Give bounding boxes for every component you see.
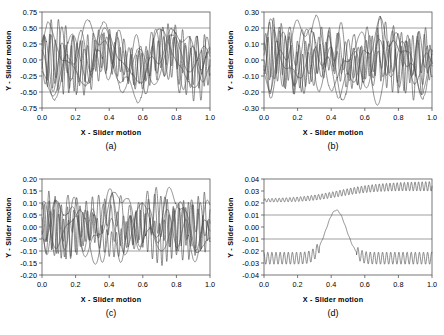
y-tick-label: -0.75 (20, 104, 37, 113)
x-tick-label: 0.6 (360, 280, 370, 289)
x-axis-label: X - Slider motion (0, 128, 222, 137)
x-tick-label: 0.8 (171, 280, 181, 289)
x-tick-label: 0.0 (259, 113, 269, 122)
x-tick-label: 0.0 (259, 280, 269, 289)
y-axis-label: Y - Slider motion (2, 179, 14, 275)
y-tick-label: 0.01 (245, 211, 259, 220)
y-tick-label: -0.05 (20, 235, 37, 244)
panel-caption-d: (d) (222, 308, 444, 318)
curve-upper-trace (264, 182, 432, 202)
curve-lower-trace (264, 210, 432, 264)
curve-trace-1 (264, 18, 432, 100)
x-tick-label: 1.0 (205, 113, 215, 122)
plot-d: -0.04-0.03-0.02-0.010.000.010.020.030.04… (222, 167, 444, 335)
y-tick-label: -0.20 (242, 88, 259, 97)
x-tick-label: 0.8 (393, 280, 403, 289)
y-axis-ticks: -0.20-0.15-0.10-0.050.000.050.100.150.20 (20, 175, 42, 280)
x-tick-label: 0.2 (293, 280, 303, 289)
x-axis-ticks: 0.00.20.40.60.81.0 (37, 108, 215, 122)
x-axis-label: X - Slider motion (0, 295, 222, 304)
panel-a: -0.75-0.50-0.250.000.250.500.750.00.20.4… (0, 0, 222, 167)
y-axis-label-text: Y - Slider motion (4, 197, 13, 257)
y-tick-label: 0.25 (23, 40, 37, 49)
y-tick-label: -0.20 (20, 271, 37, 280)
x-tick-label: 0.8 (171, 113, 181, 122)
y-tick-label: 0.00 (245, 223, 259, 232)
x-tick-label: 0.0 (37, 280, 47, 289)
x-axis-label: X - Slider motion (222, 128, 444, 137)
y-tick-label: 0.00 (23, 56, 37, 65)
x-axis-ticks: 0.00.20.40.60.81.0 (37, 275, 215, 289)
x-tick-label: 0.0 (37, 113, 47, 122)
x-tick-label: 0.6 (138, 113, 148, 122)
x-tick-label: 0.2 (71, 280, 81, 289)
y-axis-label: Y - Slider motion (224, 179, 236, 275)
y-tick-label: 0.15 (23, 187, 37, 196)
x-tick-label: 1.0 (205, 280, 215, 289)
y-tick-label: 0.20 (23, 175, 37, 184)
x-axis-ticks: 0.00.20.40.60.81.0 (259, 108, 437, 122)
y-tick-label: 0.20 (245, 24, 259, 33)
x-tick-label: 0.4 (104, 113, 114, 122)
x-tick-label: 1.0 (427, 280, 437, 289)
y-tick-label: -0.04 (242, 271, 259, 280)
y-tick-label: 0.10 (23, 199, 37, 208)
y-tick-label: 0.10 (245, 40, 259, 49)
plot-c: -0.20-0.15-0.10-0.050.000.050.100.150.20… (0, 167, 222, 335)
y-tick-label: 0.05 (23, 211, 37, 220)
y-tick-label: -0.03 (242, 259, 259, 268)
x-tick-label: 0.2 (293, 113, 303, 122)
figure-panel-grid: -0.75-0.50-0.250.000.250.500.750.00.20.4… (0, 0, 444, 335)
x-tick-label: 0.6 (138, 280, 148, 289)
x-axis-ticks: 0.00.20.40.60.81.0 (259, 275, 437, 289)
data-curves (42, 19, 210, 102)
x-axis-label: X - Slider motion (222, 295, 444, 304)
y-tick-label: 0.02 (245, 199, 259, 208)
y-tick-label: 0.03 (245, 187, 259, 196)
y-axis-label-text: Y - Slider motion (226, 30, 235, 90)
y-axis-label-text: Y - Slider motion (4, 30, 13, 90)
y-tick-label: -0.15 (20, 259, 37, 268)
y-tick-label: 0.00 (245, 56, 259, 65)
data-curves (42, 187, 210, 265)
y-tick-label: -0.01 (242, 235, 259, 244)
y-axis-ticks: -0.75-0.50-0.250.000.250.500.75 (20, 8, 42, 113)
panel-caption-b: (b) (222, 141, 444, 151)
x-tick-label: 0.6 (360, 113, 370, 122)
y-tick-label: -0.10 (242, 72, 259, 81)
plot-a: -0.75-0.50-0.250.000.250.500.750.00.20.4… (0, 0, 222, 167)
y-tick-label: 0.04 (245, 175, 259, 184)
x-tick-label: 0.4 (104, 280, 114, 289)
y-axis-label: Y - Slider motion (224, 12, 236, 108)
y-tick-label: -0.25 (20, 72, 37, 81)
panel-c: -0.20-0.15-0.10-0.050.000.050.100.150.20… (0, 167, 222, 335)
y-tick-label: -0.30 (242, 104, 259, 113)
y-axis-label-text: Y - Slider motion (226, 197, 235, 257)
plot-b: -0.30-0.20-0.100.000.100.200.300.00.20.4… (222, 0, 444, 167)
panel-caption-a: (a) (0, 141, 222, 151)
y-axis-ticks: -0.04-0.03-0.02-0.010.000.010.020.030.04 (242, 175, 264, 280)
y-tick-label: 0.50 (23, 24, 37, 33)
data-curves (264, 182, 432, 265)
panel-caption-c: (c) (0, 308, 222, 318)
x-tick-label: 0.2 (71, 113, 81, 122)
y-tick-label: 0.75 (23, 8, 37, 17)
panel-b: -0.30-0.20-0.100.000.100.200.300.00.20.4… (222, 0, 444, 167)
y-tick-label: 0.00 (23, 223, 37, 232)
y-tick-label: -0.02 (242, 247, 259, 256)
x-tick-label: 0.4 (326, 113, 336, 122)
panel-d: -0.04-0.03-0.02-0.010.000.010.020.030.04… (222, 167, 444, 335)
y-axis-ticks: -0.30-0.20-0.100.000.100.200.30 (242, 8, 264, 113)
y-tick-label: 0.30 (245, 8, 259, 17)
y-axis-label: Y - Slider motion (2, 12, 14, 108)
x-tick-label: 0.8 (393, 113, 403, 122)
y-tick-label: -0.50 (20, 88, 37, 97)
y-tick-label: -0.10 (20, 247, 37, 256)
reference-lines (264, 215, 432, 239)
x-tick-label: 1.0 (427, 113, 437, 122)
x-tick-label: 0.4 (326, 280, 336, 289)
